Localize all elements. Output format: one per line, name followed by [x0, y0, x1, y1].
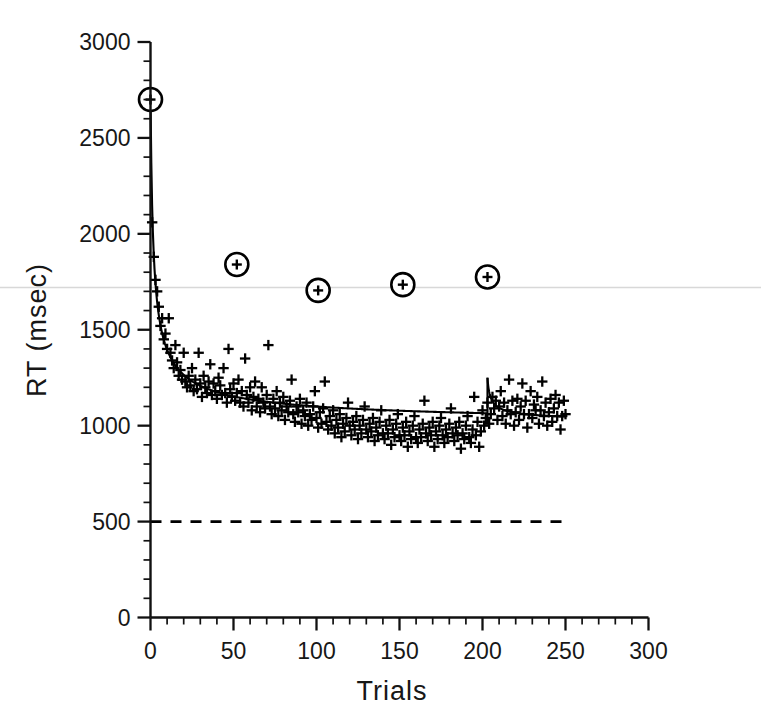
x-axis-title: Trials [357, 676, 428, 706]
circled-probe-marker [225, 253, 248, 276]
circled-probe-marker [391, 273, 414, 296]
y-tick-label: 1500 [79, 317, 130, 343]
x-tick-label: 0 [144, 638, 157, 664]
y-tick-label: 1000 [79, 413, 130, 439]
x-tick-label: 100 [297, 638, 335, 664]
x-tick-label: 300 [629, 638, 667, 664]
y-axis-title: RT (msec) [22, 263, 52, 397]
circled-probe-marker [307, 279, 330, 302]
x-tick-label: 50 [221, 638, 247, 664]
plot-background [0, 0, 761, 716]
reaction-time-scatter-plot: 050010001500200025003000 050100150200250… [0, 0, 761, 716]
chart-figure: 050010001500200025003000 050100150200250… [0, 0, 761, 716]
x-tick-label: 150 [380, 638, 418, 664]
x-tick-label: 200 [463, 638, 501, 664]
y-tick-label: 500 [92, 509, 130, 535]
y-tick-label: 2000 [79, 221, 130, 247]
y-tick-label: 0 [118, 605, 131, 631]
circled-probe-marker [476, 265, 499, 288]
y-tick-label: 3000 [79, 29, 130, 55]
y-tick-label: 2500 [79, 125, 130, 151]
x-tick-label: 250 [546, 638, 584, 664]
